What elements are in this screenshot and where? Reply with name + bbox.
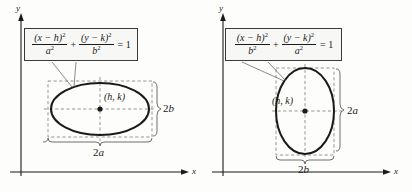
fraction-y-denominator: b2 — [90, 45, 102, 57]
height-brace — [153, 82, 161, 136]
fraction-y-denominator: a2 — [293, 45, 305, 57]
panel-vertical-ellipse: y x (x − h)2 b2 + (y − k)2 a2 = 1 (h, k)… — [206, 0, 412, 192]
formula-box-vertical: (x − h)2 b2 + (y − k)2 a2 = 1 — [225, 28, 342, 61]
center-point — [97, 106, 102, 111]
formula-leader-lines — [52, 62, 76, 87]
x-axis-label: x — [192, 167, 196, 176]
width-brace — [43, 138, 152, 146]
fraction-x-term: (x − h)2 b2 — [235, 33, 270, 57]
x-axis-label: x — [394, 167, 398, 176]
formula-operator: + — [70, 40, 76, 50]
width-dimension-label: 2a — [93, 147, 104, 158]
y-axis-label: y — [16, 4, 20, 13]
formula-operator: + — [273, 40, 279, 50]
formula-expression: (x − h)2 a2 + (y − k)2 b2 = 1 — [31, 33, 130, 57]
fraction-x-term: (x − h)2 a2 — [32, 33, 67, 57]
center-coordinate-label: (h, k) — [104, 92, 125, 102]
center-point — [302, 108, 307, 113]
fraction-x-denominator: a2 — [44, 45, 56, 57]
y-axis-label: y — [219, 4, 223, 13]
formula-expression: (x − h)2 b2 + (y − k)2 a2 = 1 — [234, 33, 333, 57]
height-brace — [336, 69, 344, 151]
ellipse-standard-equations-figure: y x (x − h)2 a2 + (y − k)2 b2 = 1 (h, k)… — [0, 0, 412, 192]
height-dimension-label: 2b — [163, 103, 174, 114]
x-axis — [10, 169, 189, 175]
center-coordinate-label: (h, k) — [272, 96, 293, 106]
fraction-y-term: (y − k)2 b2 — [79, 33, 114, 57]
width-dimension-label: 2b — [298, 164, 309, 175]
height-dimension-label: 2a — [347, 105, 358, 116]
fraction-y-term: (y − k)2 a2 — [282, 33, 317, 57]
fraction-x-denominator: b2 — [246, 45, 258, 57]
formula-equals: = 1 — [118, 40, 131, 50]
formula-leader-lines — [242, 62, 286, 81]
formula-box-horizontal: (x − h)2 a2 + (y − k)2 b2 = 1 — [24, 28, 138, 61]
y-axis — [18, 13, 24, 176]
formula-equals: = 1 — [320, 40, 333, 50]
panel-horizontal-ellipse: y x (x − h)2 a2 + (y − k)2 b2 = 1 (h, k)… — [0, 0, 206, 192]
